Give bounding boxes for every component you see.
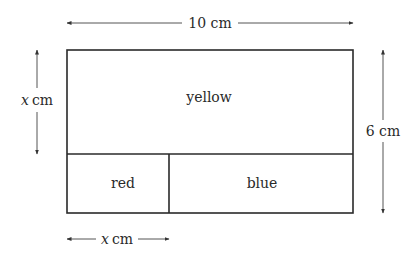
region-red-label: red xyxy=(111,175,135,191)
left-dimension-unit: cm xyxy=(32,92,53,108)
diagram-svg: yellow red blue 10 cm 6 cm xcm xcm xyxy=(0,0,417,255)
right-dimension-label: 6 cm xyxy=(366,123,400,139)
left-dimension-var: x xyxy=(21,92,29,108)
outer-rectangle xyxy=(67,50,353,213)
bottom-dimension-var: x xyxy=(101,231,109,247)
region-yellow-label: yellow xyxy=(185,89,232,105)
top-dimension-label: 10 cm xyxy=(188,15,231,31)
right-dimension: 6 cm xyxy=(366,50,400,213)
left-dimension-label: xcm xyxy=(21,92,53,108)
top-dimension: 10 cm xyxy=(67,15,353,31)
region-blue-label: blue xyxy=(247,175,278,191)
left-dimension: xcm xyxy=(21,50,53,154)
bottom-dimension-label: xcm xyxy=(101,231,133,247)
bottom-dimension: xcm xyxy=(67,231,169,247)
diagram-canvas: yellow red blue 10 cm 6 cm xcm xcm xyxy=(0,0,417,255)
bottom-dimension-unit: cm xyxy=(112,231,133,247)
